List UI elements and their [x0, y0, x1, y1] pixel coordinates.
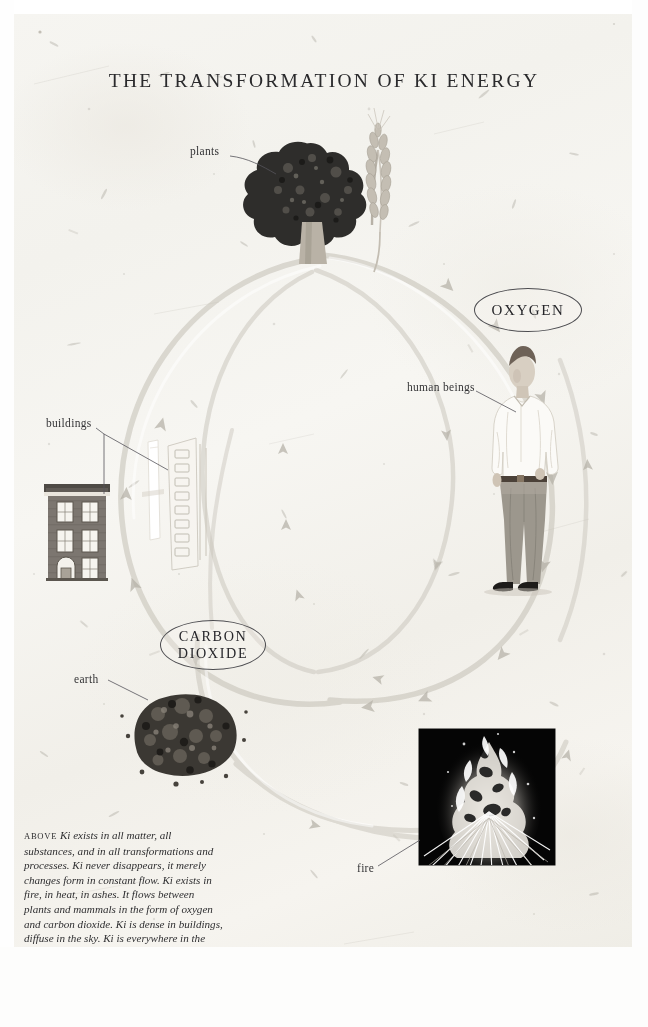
figure-caption: ABOVE Ki exists in all matter, all subst… — [24, 828, 224, 960]
label-fire: fire — [357, 862, 374, 874]
oxygen-text: OXYGEN — [492, 302, 565, 319]
label-oxygen-bubble: OXYGEN — [474, 288, 582, 332]
caption-above-marker: ABOVE — [24, 831, 57, 841]
label-carbon-dioxide-bubble: CARBON DIOXIDE — [160, 620, 266, 670]
label-plants: plants — [190, 145, 219, 157]
label-buildings: buildings — [46, 417, 92, 429]
carbon-dioxide-line-2: DIOXIDE — [178, 645, 248, 661]
fire-photo-frame — [419, 729, 555, 865]
page-margin-top — [0, 0, 648, 14]
caption-body: Ki exists in all matter, all substances,… — [24, 829, 223, 959]
page-margin-left — [0, 0, 14, 1027]
page-title: THE TRANSFORMATION OF KI ENERGY — [0, 70, 648, 92]
page-margin-bottom — [0, 947, 648, 1027]
label-human-beings: human beings — [407, 381, 475, 393]
carbon-dioxide-line-1: CARBON — [179, 628, 248, 644]
label-earth: earth — [74, 673, 98, 685]
page-margin-right — [632, 0, 648, 1027]
book-page: THE TRANSFORMATION OF KI ENERGY — [0, 0, 648, 1027]
